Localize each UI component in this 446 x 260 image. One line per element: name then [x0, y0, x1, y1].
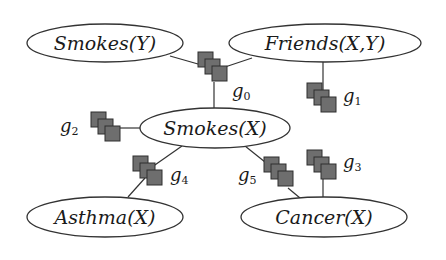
- factor-g0: g0: [198, 52, 251, 103]
- node-smokes-y: Smokes(Y): [27, 24, 183, 62]
- node-cancer-x: Cancer(X): [241, 197, 407, 237]
- node-label: Smokes(Y): [54, 32, 156, 54]
- factor-square-icon: [105, 126, 120, 141]
- factor-label: g1: [343, 85, 362, 108]
- factor-square-icon: [278, 171, 293, 186]
- factor-square-icon: [321, 164, 336, 179]
- factor-label: g2: [60, 115, 79, 138]
- factor-label: g5: [238, 164, 257, 187]
- factor-g5: g5: [238, 157, 293, 187]
- factor-label: g0: [232, 80, 251, 103]
- node-smokes-x: Smokes(X): [140, 108, 290, 148]
- node-label: Friends(X,Y): [264, 32, 386, 54]
- factor-label: g3: [343, 151, 362, 174]
- factor-g1: g1: [307, 83, 362, 112]
- node-asthma-x: Asthma(X): [27, 197, 183, 237]
- edge-g5-cancer-x: [288, 188, 300, 198]
- factor-g3: g3: [307, 150, 362, 179]
- node-label: Cancer(X): [275, 206, 372, 228]
- factor-g2: g2: [60, 112, 120, 141]
- factor-label: g4: [170, 164, 189, 187]
- node-label: Asthma(X): [52, 206, 155, 228]
- factor-square-icon: [212, 66, 227, 81]
- factor-square-icon: [147, 170, 162, 185]
- factor-graph-diagram: Smokes(Y) Friends(X,Y) Smokes(X) Asthma(…: [0, 0, 446, 260]
- factor-square-icon: [321, 97, 336, 112]
- node-label: Smokes(X): [163, 117, 266, 139]
- node-friends-xy: Friends(X,Y): [229, 24, 421, 62]
- edge-g4-asthma-x: [128, 178, 145, 197]
